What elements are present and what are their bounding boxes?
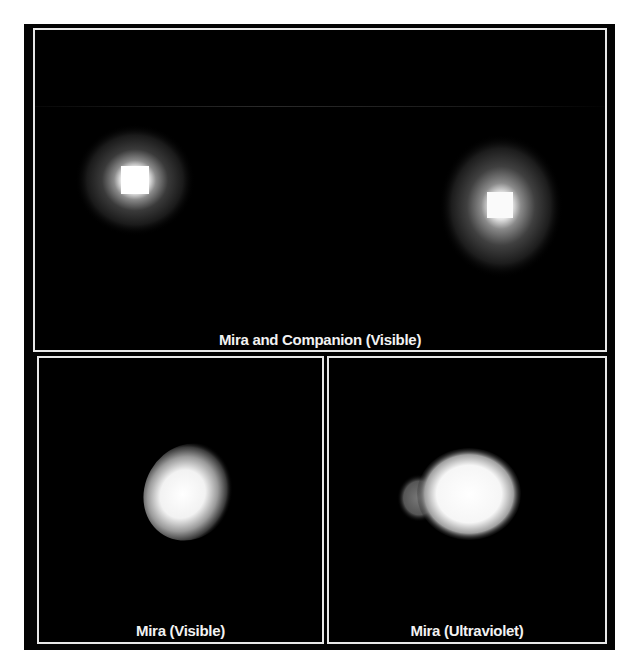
panel-mira-and-companion: Mira and Companion (Visible) xyxy=(33,28,607,352)
mira-disk-uv xyxy=(417,448,521,540)
panel-mira-visible: Mira (Visible) xyxy=(37,356,324,644)
panel-caption-bottom-right: Mira (Ultraviolet) xyxy=(329,622,605,639)
mira-ultraviolet-image xyxy=(329,358,605,642)
panel-caption-bottom-left: Mira (Visible) xyxy=(39,622,322,639)
figure-frame: Mira and Companion (Visible) Mira (Visib… xyxy=(24,24,615,650)
mira-core xyxy=(121,166,149,194)
panel-mira-ultraviolet: Mira (Ultraviolet) xyxy=(327,356,607,644)
companion-core xyxy=(487,192,513,218)
top-panel-image xyxy=(35,30,605,350)
mira-disk-visible xyxy=(126,427,252,558)
panel-caption-top: Mira and Companion (Visible) xyxy=(35,331,605,348)
mira-visible-image xyxy=(39,358,322,642)
